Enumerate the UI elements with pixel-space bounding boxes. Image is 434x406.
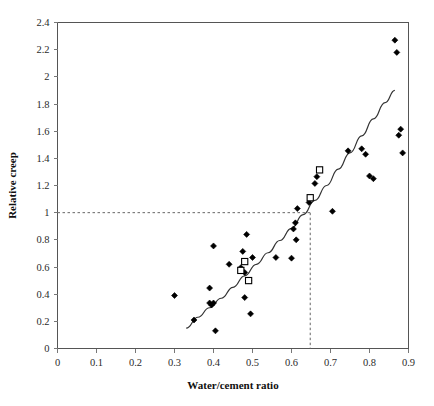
y-tick-label: 2.2 xyxy=(36,44,49,55)
y-tick-label: 0.8 xyxy=(36,234,49,245)
data-point-filled-diamond xyxy=(363,151,369,157)
y-tick-label: 0.4 xyxy=(36,289,50,300)
x-tick-label: 0 xyxy=(55,357,60,368)
data-point-filled-diamond xyxy=(244,231,250,237)
data-point-filled-diamond xyxy=(293,237,299,243)
chart-container: 00.20.40.60.811.21.41.61.822.22.400.10.2… xyxy=(0,0,434,406)
data-point-filled-diamond xyxy=(289,255,295,261)
data-point-filled-diamond xyxy=(273,254,279,260)
data-point-filled-diamond xyxy=(329,208,335,214)
plot-frame xyxy=(58,23,409,349)
data-point-filled-diamond xyxy=(312,180,318,186)
y-tick-label: 0 xyxy=(44,343,49,354)
data-point-filled-diamond xyxy=(242,295,248,301)
y-axis-title: Relative creep xyxy=(6,152,18,219)
data-point-filled-diamond xyxy=(294,206,300,212)
series-2 xyxy=(238,167,323,284)
data-point-filled-diamond xyxy=(211,243,217,249)
x-tick-label: 0.3 xyxy=(168,357,181,368)
trend-curve xyxy=(186,90,395,328)
data-point-filled-diamond xyxy=(359,146,365,152)
y-tick-label: 1.4 xyxy=(36,153,50,164)
data-point-open-square xyxy=(307,195,313,201)
data-point-filled-diamond xyxy=(398,126,404,132)
y-tick-label: 1.8 xyxy=(36,99,49,110)
x-tick-label: 0.6 xyxy=(285,357,298,368)
data-point-open-square xyxy=(238,267,244,273)
x-tick-label: 0.8 xyxy=(363,357,376,368)
data-point-filled-diamond xyxy=(400,150,406,156)
series-1 xyxy=(172,37,406,334)
data-point-filled-diamond xyxy=(250,254,256,260)
data-point-filled-diamond xyxy=(392,37,398,43)
y-tick-label: 1.2 xyxy=(36,180,49,191)
data-point-filled-diamond xyxy=(248,311,254,317)
y-tick-label: 1.6 xyxy=(36,126,49,137)
x-axis-title: Water/cement ratio xyxy=(187,379,279,391)
data-point-filled-diamond xyxy=(226,261,232,267)
data-point-filled-diamond xyxy=(290,226,296,232)
y-tick-label: 0.6 xyxy=(36,262,49,273)
data-point-open-square xyxy=(242,258,248,264)
x-tick-label: 0.5 xyxy=(246,357,259,368)
data-point-filled-diamond xyxy=(394,49,400,55)
data-point-filled-diamond xyxy=(172,293,178,299)
data-point-filled-diamond xyxy=(212,328,218,334)
x-tick-label: 0.9 xyxy=(402,357,415,368)
x-tick-label: 0.7 xyxy=(324,357,337,368)
data-point-filled-diamond xyxy=(314,174,320,180)
x-tick-label: 0.4 xyxy=(207,357,221,368)
data-point-filled-diamond xyxy=(240,248,246,254)
y-tick-label: 2 xyxy=(44,71,49,82)
y-tick-label: 1 xyxy=(44,207,49,218)
scatter-plot: 00.20.40.60.811.21.41.61.822.22.400.10.2… xyxy=(0,0,434,406)
data-point-filled-diamond xyxy=(207,285,213,291)
data-point-open-square xyxy=(316,167,322,173)
x-tick-label: 0.2 xyxy=(129,357,142,368)
data-point-open-square xyxy=(246,277,252,283)
y-tick-label: 0.2 xyxy=(36,316,49,327)
y-tick-label: 2.4 xyxy=(36,17,50,28)
x-tick-label: 0.1 xyxy=(90,357,103,368)
data-point-filled-diamond xyxy=(396,132,402,138)
